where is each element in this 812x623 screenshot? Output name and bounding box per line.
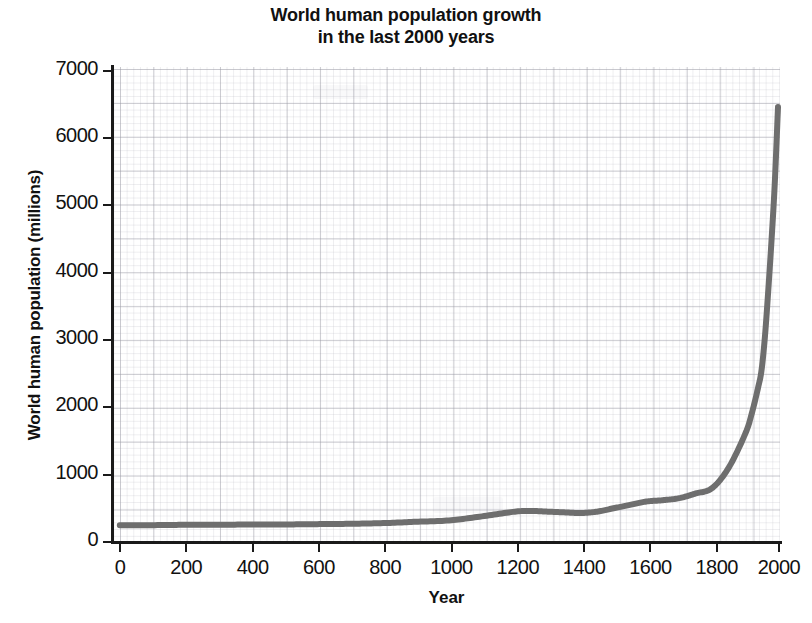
plot-area (113, 67, 780, 542)
x-tick-800 (384, 542, 386, 552)
y-tick-label-4000: 4000 (36, 259, 98, 282)
chart-title-line-2: in the last 2000 years (0, 26, 812, 48)
x-tick-label-2000: 2000 (739, 556, 812, 579)
x-tick-1800 (716, 542, 718, 552)
chart-title: World human population growth in the las… (0, 4, 812, 48)
y-tick-label-1000: 1000 (36, 461, 98, 484)
chart-title-line-1: World human population growth (271, 5, 542, 25)
x-tick-1200 (517, 542, 519, 552)
y-tick-6000 (103, 137, 112, 139)
y-tick-label-2000: 2000 (36, 393, 98, 416)
x-tick-0 (119, 542, 121, 552)
y-tick-1000 (103, 474, 112, 476)
y-tick-7000 (103, 70, 112, 72)
y-tick-label-0: 0 (36, 528, 98, 551)
population-growth-chart: World human population growth in the las… (0, 0, 812, 623)
x-tick-1600 (649, 542, 651, 552)
x-tick-600 (318, 542, 320, 552)
scan-artifact (313, 85, 368, 99)
x-axis-line (111, 541, 782, 544)
x-tick-1000 (451, 542, 453, 552)
x-axis-title: Year (113, 588, 780, 608)
y-tick-3000 (103, 339, 112, 341)
y-tick-label-7000: 7000 (36, 57, 98, 80)
scan-artifact (433, 497, 503, 513)
x-tick-200 (185, 542, 187, 552)
x-tick-400 (252, 542, 254, 552)
y-tick-0 (103, 541, 112, 543)
x-tick-2000 (778, 542, 780, 552)
x-tick-1400 (583, 542, 585, 552)
y-tick-5000 (103, 204, 112, 206)
y-tick-label-6000: 6000 (36, 124, 98, 147)
y-tick-4000 (103, 272, 112, 274)
y-tick-label-5000: 5000 (36, 191, 98, 214)
y-tick-2000 (103, 406, 112, 408)
y-tick-label-3000: 3000 (36, 326, 98, 349)
